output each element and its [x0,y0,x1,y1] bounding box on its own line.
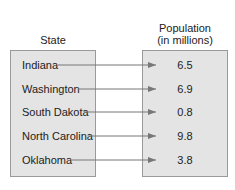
mapping-arrows [0,0,235,190]
